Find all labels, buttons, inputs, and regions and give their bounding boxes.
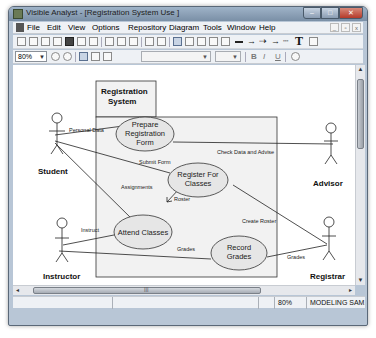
zoom-value: 80% — [18, 53, 32, 60]
text-tool-icon[interactable]: T — [295, 35, 303, 48]
svg-text:Grades: Grades — [227, 252, 252, 261]
arrow-tool-icon[interactable]: → — [247, 36, 256, 47]
menu-window[interactable]: Window — [227, 22, 255, 34]
image-tool-icon[interactable] — [309, 37, 318, 46]
use-case-tool-icon[interactable] — [197, 37, 206, 46]
italic-button[interactable]: I — [263, 51, 265, 62]
app-window: Visible Analyst - [Registration System U… — [8, 6, 368, 326]
horizontal-scroll-thumb[interactable]: ||| — [33, 287, 261, 294]
format-toolbar: 80% ▼ ▼ ▼ B I U — [13, 50, 363, 64]
maximize-button[interactable]: □ — [321, 7, 339, 19]
package-tool-icon[interactable] — [221, 37, 230, 46]
menu-repository[interactable]: Repository — [128, 22, 166, 34]
label-submit-form: Submit Form — [139, 159, 171, 165]
title-bar[interactable]: Visible Analyst - [Registration System U… — [9, 7, 367, 21]
actor-tool-icon[interactable] — [185, 37, 194, 46]
menu-options[interactable]: Options — [92, 22, 120, 34]
minimize-button[interactable]: – — [303, 7, 321, 19]
status-cell-2 — [113, 297, 259, 309]
toolbar-separator — [245, 52, 246, 62]
vertical-scrollbar[interactable]: ▲ ▼ — [355, 65, 365, 285]
scroll-up-icon[interactable]: ▲ — [356, 65, 365, 74]
menu-file[interactable]: File — [27, 22, 40, 34]
view-mode-2-icon[interactable] — [91, 52, 100, 61]
bold-button[interactable]: B — [251, 51, 257, 62]
menu-bar: File Edit View Options Repository Diagra… — [13, 22, 363, 34]
horizontal-scrollbar[interactable]: ◂ ||| ▸ — [13, 285, 355, 295]
save-disk-icon[interactable] — [65, 37, 74, 46]
use-case-record-grades[interactable]: Record Grades — [211, 236, 267, 270]
scroll-right-icon[interactable]: ▸ — [346, 286, 355, 295]
toolbar-separator — [141, 37, 142, 47]
cut-icon[interactable] — [105, 37, 114, 46]
label-personal-data: Personal Data — [69, 127, 105, 133]
boundary-title-line2: System — [108, 97, 136, 106]
svg-text:Record: Record — [227, 243, 251, 252]
svg-text:Form: Form — [136, 138, 154, 147]
svg-text:Register For: Register For — [177, 170, 219, 179]
label-instruct: Instruct — [81, 227, 100, 233]
generalization-tool-icon[interactable]: → — [271, 36, 280, 47]
view-mode-1-icon[interactable] — [79, 52, 88, 61]
mdi-close-button[interactable]: x — [352, 23, 361, 32]
actor-label-advisor: Advisor — [313, 179, 343, 188]
print-icon[interactable] — [77, 37, 86, 46]
dependency-arrow-tool-icon[interactable]: ⇢ — [259, 36, 267, 47]
grip-icon: ||| — [144, 286, 149, 292]
color-icon[interactable] — [291, 52, 300, 61]
system-boundary-tool-icon[interactable] — [209, 37, 218, 46]
save-icon[interactable] — [17, 37, 26, 46]
actor-instructor[interactable] — [55, 218, 69, 262]
font-size-dropdown[interactable]: ▼ — [215, 51, 241, 62]
view-mode-3-icon[interactable] — [103, 52, 112, 61]
pointer-tool-icon[interactable] — [173, 37, 182, 46]
label-grades-instructor: Grades — [177, 246, 195, 252]
scroll-left-icon[interactable]: ◂ — [13, 286, 22, 295]
new-icon[interactable] — [29, 37, 38, 46]
svg-text:Classes: Classes — [185, 179, 212, 188]
actor-advisor[interactable] — [324, 123, 338, 164]
label-assignments: Assignments — [121, 184, 153, 190]
actor-label-student: Student — [38, 167, 68, 176]
actor-registrar[interactable] — [322, 217, 336, 260]
find-icon[interactable] — [89, 37, 98, 46]
dashed-line-tool-icon[interactable]: ┄ — [283, 36, 288, 47]
previous-icon[interactable] — [157, 37, 166, 46]
diagram-canvas[interactable]: Registration System Prepare Regis — [13, 65, 355, 285]
font-name-dropdown[interactable]: ▼ — [141, 51, 211, 62]
use-case-attend-classes[interactable]: Attend Classes — [114, 215, 172, 249]
mdi-restore-button[interactable]: ▫ — [341, 23, 350, 32]
menu-tools[interactable]: Tools — [203, 22, 222, 34]
close-button[interactable]: ✕ — [339, 7, 363, 19]
actor-label-instructor: Instructor — [43, 272, 80, 281]
zoom-dropdown[interactable]: 80% ▼ — [15, 51, 47, 62]
svg-text:Attend Classes: Attend Classes — [118, 228, 169, 237]
svg-text:Registration: Registration — [125, 129, 165, 138]
underline-button[interactable]: U — [275, 51, 281, 62]
line-tool-icon[interactable] — [235, 41, 243, 43]
first-page-icon[interactable] — [145, 37, 154, 46]
actor-student[interactable] — [49, 113, 65, 154]
use-case-prepare-registration-form[interactable]: Prepare Registration Form — [116, 117, 174, 151]
paste-icon[interactable] — [129, 37, 138, 46]
open-icon[interactable] — [53, 37, 62, 46]
scroll-down-icon[interactable]: ▼ — [356, 276, 365, 285]
vertical-scroll-thumb[interactable] — [357, 79, 364, 149]
zoom-out-icon[interactable] — [63, 52, 72, 61]
menu-view[interactable]: View — [68, 22, 85, 34]
use-case-register-for-classes[interactable]: Register For Classes — [168, 163, 228, 197]
label-grades-registrar: Grades — [287, 254, 305, 260]
status-zoom: 80% — [275, 297, 307, 309]
window-title: Visible Analyst - [Registration System U… — [26, 8, 179, 17]
menu-help[interactable]: Help — [259, 22, 275, 34]
toolbar-separator — [285, 52, 286, 62]
copy-icon[interactable] — [117, 37, 126, 46]
menu-edit[interactable]: Edit — [47, 22, 61, 34]
chevron-down-icon: ▼ — [202, 52, 208, 62]
menu-diagram[interactable]: Diagram — [169, 22, 199, 34]
mdi-minimize-button[interactable]: _ — [330, 23, 339, 32]
document-icon[interactable] — [16, 23, 24, 32]
zoom-in-icon[interactable] — [51, 52, 60, 61]
label-roster: Roster — [174, 196, 190, 202]
new-document-icon[interactable] — [41, 37, 50, 46]
